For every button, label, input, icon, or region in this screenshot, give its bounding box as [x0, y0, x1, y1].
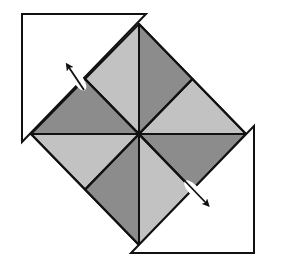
origami-diagram: [0, 0, 281, 269]
